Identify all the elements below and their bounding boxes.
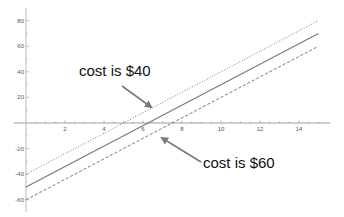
x-tick-label: 8	[180, 126, 184, 132]
arrow-cost-60	[162, 138, 201, 162]
y-tick-label: -60	[15, 197, 24, 203]
y-tick-label: 60	[17, 43, 24, 49]
x-tick-label: 10	[218, 126, 225, 132]
y-tick-label: 80	[17, 18, 24, 24]
arrow-cost-40	[122, 86, 151, 107]
x-tick-labels: 2 4 6 8 10 12 14	[63, 126, 303, 132]
x-tick-label: 6	[141, 126, 145, 132]
x-tick-label: 2	[63, 126, 67, 132]
y-tick-label: -40	[15, 171, 24, 177]
annotation-cost-60: cost is $60	[203, 154, 275, 171]
x-tick-label: 12	[257, 126, 264, 132]
y-tick-labels: 80 60 40 20 -20 -40 -60	[15, 18, 24, 203]
y-tick-label: 40	[17, 69, 24, 75]
x-tick-label: 4	[102, 126, 106, 132]
annotation-cost-40: cost is $40	[79, 62, 151, 79]
x-tick-label: 14	[296, 126, 303, 132]
series-cost-40-dotted	[26, 21, 319, 175]
line-chart: 2 4 6 8 10 12 14 80 60 40 20 -20 -40 -60	[0, 0, 344, 217]
y-tick-label: -20	[15, 146, 24, 152]
y-tick-label: 20	[17, 94, 24, 100]
